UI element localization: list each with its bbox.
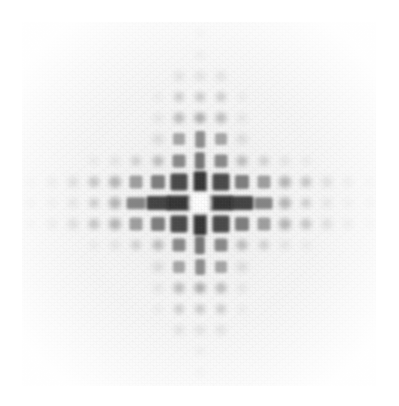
reflection-spot: [89, 176, 100, 187]
reflection-spot: [366, 199, 374, 207]
reflection-spot: [90, 157, 98, 165]
reflection-spot: [173, 261, 185, 273]
reflection-spot: [130, 218, 143, 231]
reflection-spot: [195, 152, 205, 170]
reflection-spot: [170, 216, 187, 233]
reflection-spot: [344, 220, 353, 229]
reflection-spot: [26, 199, 34, 207]
reflection-spot: [344, 177, 353, 186]
reflection-spot: [216, 282, 227, 293]
reflection-spot: [280, 241, 289, 250]
reflection-spot: [111, 241, 120, 250]
reflection-spot: [154, 93, 162, 101]
reflection-spot: [174, 304, 184, 314]
reflection-spot: [172, 239, 185, 252]
reflection-spot: [109, 218, 121, 230]
reflection-spot: [238, 283, 247, 292]
reflection-spot: [146, 196, 169, 210]
reflection-spot: [173, 282, 184, 293]
reflection-spot: [196, 71, 205, 80]
reflection-spot: [322, 177, 332, 187]
reflection-spot: [109, 197, 121, 209]
reflection-spot: [259, 240, 269, 250]
reflection-spot: [323, 199, 332, 208]
reflection-spot: [280, 156, 289, 165]
reflection-spot: [167, 196, 191, 211]
reflection-spot: [196, 326, 205, 335]
reflection-spot: [366, 220, 374, 228]
reflection-spot: [279, 176, 291, 188]
reflection-spot: [279, 197, 291, 209]
reflection-spot: [173, 133, 185, 145]
reflection-spot: [195, 237, 205, 255]
reflection-spot: [47, 177, 56, 186]
reflection-spot: [301, 219, 312, 230]
reflection-spot: [153, 134, 163, 144]
reflection-spot: [238, 93, 246, 101]
reflection-spot: [173, 113, 184, 124]
reflection-spot: [196, 369, 204, 377]
reflection-spot: [237, 155, 248, 166]
reflection-spot: [196, 29, 204, 37]
reflection-spot: [127, 197, 146, 209]
reflection-spot-layer: [22, 22, 376, 386]
reflection-spot: [153, 114, 162, 123]
reflection-spot: [195, 92, 205, 102]
reflection-spot: [68, 199, 77, 208]
reflection-spot: [237, 262, 247, 272]
reflection-spot: [172, 154, 185, 167]
reflection-spot: [26, 178, 34, 186]
reflection-spot: [301, 198, 311, 208]
reflection-spot: [90, 241, 98, 249]
pattern-plate: [22, 22, 376, 386]
reflection-spot: [68, 177, 78, 187]
reflection-spot: [235, 175, 249, 189]
reflection-spot: [213, 216, 230, 233]
reflection-spot: [217, 71, 226, 80]
reflection-spot: [215, 133, 227, 145]
reflection-spot: [68, 219, 78, 229]
reflection-spot: [257, 218, 270, 231]
reflection-spot: [209, 196, 233, 211]
reflection-spot: [89, 198, 99, 208]
reflection-spot: [259, 156, 269, 166]
reflection-spot: [153, 262, 163, 272]
reflection-spot: [151, 217, 165, 231]
reflection-spot: [213, 173, 230, 190]
reflection-spot: [195, 282, 206, 293]
reflection-spot: [216, 113, 227, 124]
reflection-spot: [279, 218, 291, 230]
reflection-spot: [301, 176, 312, 187]
reflection-spot: [152, 155, 163, 166]
reflection-spot: [131, 240, 141, 250]
reflection-spot: [322, 219, 332, 229]
reflection-spot: [237, 240, 248, 251]
diffraction-pattern-image: Simulated electron diffraction pattern: [0, 0, 399, 406]
reflection-spot: [194, 171, 207, 193]
reflection-spot: [302, 157, 310, 165]
reflection-spot: [170, 173, 187, 190]
reflection-spot: [109, 176, 121, 188]
reflection-spot: [195, 259, 205, 275]
reflection-spot: [237, 134, 247, 144]
reflection-spot: [153, 283, 162, 292]
reflection-spot: [344, 199, 352, 207]
reflection-spot: [151, 175, 165, 189]
reflection-spot: [215, 154, 228, 167]
reflection-spot: [174, 326, 183, 335]
reflection-spot: [254, 197, 273, 209]
reflection-spot: [130, 175, 143, 188]
reflection-spot: [48, 199, 56, 207]
reflection-spot: [257, 175, 270, 188]
reflection-spot: [235, 217, 249, 231]
reflection-spot: [111, 156, 120, 165]
reflection-spot: [216, 304, 226, 314]
reflection-spot: [47, 220, 56, 229]
reflection-spot: [215, 239, 228, 252]
reflection-spot: [238, 114, 247, 123]
reflection-spot: [196, 347, 204, 355]
reflection-spot: [238, 305, 246, 313]
reflection-spot: [195, 113, 206, 124]
reflection-spot: [195, 131, 205, 147]
reflection-spot: [231, 196, 254, 210]
